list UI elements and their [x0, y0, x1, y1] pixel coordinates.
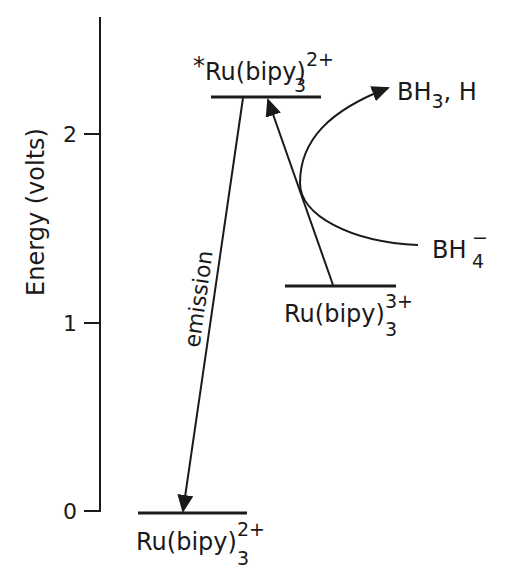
oxidized-sup: 3+ [385, 290, 413, 312]
excited-sup: 2+ [306, 48, 334, 70]
bh4-sup: − [472, 226, 488, 248]
products-sub: 3 [432, 90, 444, 112]
excited-sub: 3 [294, 74, 306, 96]
axis-title: Energy (volts) [22, 128, 50, 296]
excited-base: Ru(bipy) [205, 58, 306, 86]
products-tail: , H [444, 78, 477, 106]
ground-sup: 2+ [237, 518, 265, 540]
emission-label: emission [179, 249, 217, 349]
axis-tick-label-2: 2 [63, 122, 77, 147]
oxidized-base: Ru(bipy) [284, 300, 385, 328]
ground-base: Ru(bipy) [136, 528, 237, 556]
energy-level-diagram: 2 1 0 Energy (volts) emission *Ru(bipy)2… [0, 0, 506, 573]
label-excited-state: *Ru(bipy)2+ 3 [193, 48, 334, 96]
label-bh4: BH 4 − [432, 226, 488, 272]
oxidized-sub: 3 [385, 318, 397, 340]
ground-sub: 3 [237, 547, 249, 569]
label-products: BH3, H [397, 78, 477, 112]
bh4-sub: 4 [472, 250, 484, 272]
bh4-reaction-curve [300, 88, 418, 245]
energy-axis: 2 1 0 Energy (volts) [22, 17, 100, 524]
svg-text:*Ru(bipy)2+: *Ru(bipy)2+ [193, 48, 334, 86]
products-base: BH [397, 78, 432, 106]
label-oxidized-state: Ru(bipy)3+ 3 [284, 290, 413, 340]
svg-text:BH: BH [432, 236, 467, 264]
excited-star: * [193, 52, 205, 80]
label-ground-state: Ru(bipy)2+ 3 [136, 518, 265, 569]
axis-tick-label-1: 1 [63, 311, 77, 336]
svg-text:BH3, H: BH3, H [397, 78, 477, 112]
bh4-base: BH [432, 236, 467, 264]
axis-tick-label-0: 0 [63, 499, 77, 524]
